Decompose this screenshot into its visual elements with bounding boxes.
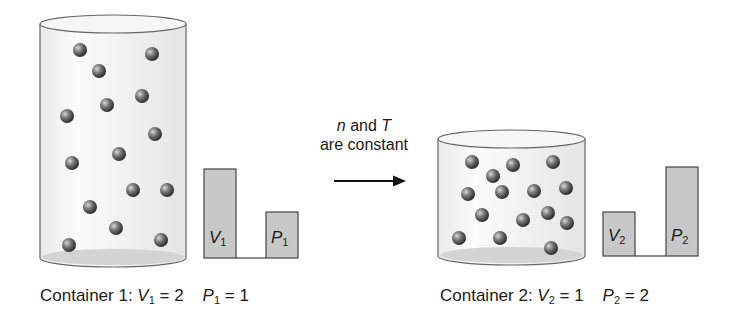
container-1-caption: Container 1: V1 = 2 P1 = 1 (40, 286, 249, 306)
pressure-bar-2-label: P2 (671, 226, 688, 246)
arrow-icon (334, 176, 406, 187)
container-2-caption: Container 2: V2 = 1 P2 = 2 (440, 286, 649, 306)
volume-bar-1-label: V1 (209, 228, 226, 248)
diagram-canvas (0, 0, 737, 310)
process-condition-text: n and T are constant (306, 116, 422, 154)
condition-line-1: n and T (306, 116, 422, 135)
volume-bar-2-label: V2 (608, 226, 625, 246)
pressure-bar-1-label: P1 (271, 228, 288, 248)
condition-line-2: are constant (306, 135, 422, 154)
